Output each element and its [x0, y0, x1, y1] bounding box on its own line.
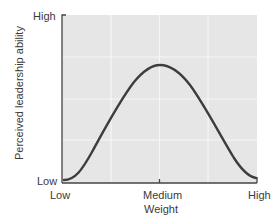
y-tick-high: High — [33, 10, 56, 22]
x-tick-low: Low — [50, 189, 70, 201]
chart — [0, 0, 279, 223]
x-axis-title: Weight — [144, 203, 178, 215]
x-tick-medium: Medium — [143, 189, 182, 201]
x-tick-high: High — [248, 189, 271, 201]
y-tick-low: Low — [37, 175, 57, 187]
y-axis-title: Perceived leadership ability — [13, 26, 25, 160]
